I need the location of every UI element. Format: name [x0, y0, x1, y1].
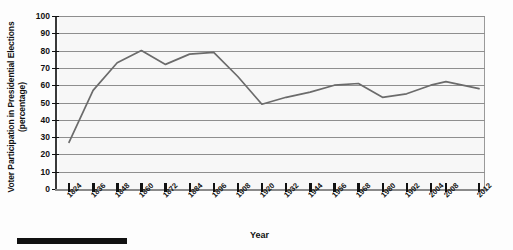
chart-figure: Voter Participation in Presidential Elec…: [0, 0, 513, 250]
y-axis-tick: [52, 68, 59, 69]
y-axis-tick-label: 90: [20, 28, 50, 38]
y-axis-tick: [52, 16, 59, 17]
y-axis-tick-label: 40: [20, 115, 50, 125]
y-axis-tick: [52, 137, 59, 138]
y-axis-tick: [52, 51, 59, 52]
y-axis-tick-label: 60: [20, 80, 50, 90]
y-axis-tick: [52, 154, 59, 155]
y-axis-tick: [52, 120, 59, 121]
y-axis-tick-label: 70: [20, 63, 50, 73]
y-axis-tick-label: 100: [20, 11, 50, 21]
y-axis-tick-label: 80: [20, 46, 50, 56]
y-axis-tick-label: 50: [20, 98, 50, 108]
y-axis-tick-label: 10: [20, 167, 50, 177]
x-axis-title: Year: [250, 230, 269, 240]
data-series-line: [59, 16, 485, 189]
y-axis-tick-label: 30: [20, 132, 50, 142]
plot-area: [59, 16, 485, 189]
y-axis-tick: [52, 103, 59, 104]
y-axis-tick: [52, 33, 59, 34]
caption-rule: [17, 238, 127, 244]
y-axis-tick-label: 0: [20, 184, 50, 194]
y-axis-tick-label: 20: [20, 149, 50, 159]
y-axis-tick: [52, 85, 59, 86]
y-axis-tick: [52, 172, 59, 173]
